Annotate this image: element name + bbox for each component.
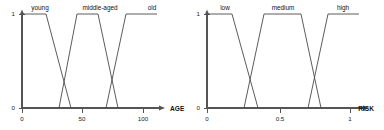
age-y-ticklabel-1: 1 bbox=[12, 10, 16, 17]
age-curve-old bbox=[106, 14, 157, 108]
risk-y-ticklabel-0: 0 bbox=[197, 104, 201, 111]
age-set-label-young: young bbox=[31, 4, 49, 12]
fuzzy-membership-figure: 1 0 0 50 100 AGE young middle-aged old bbox=[0, 0, 384, 130]
risk-set-label-low: low bbox=[220, 4, 230, 11]
risk-x-ticklabel-0: 0 bbox=[205, 115, 209, 122]
risk-set-label-high: high bbox=[337, 4, 350, 12]
age-set-label-middle-aged: middle-aged bbox=[82, 4, 118, 12]
risk-y-ticklabel-1: 1 bbox=[197, 10, 201, 17]
age-curve-young bbox=[22, 14, 71, 108]
age-x-ticklabel-0: 0 bbox=[20, 115, 24, 122]
risk-x-ticklabel-1: 1 bbox=[348, 115, 352, 122]
membership-charts-svg: 1 0 0 50 100 AGE young middle-aged old bbox=[0, 0, 384, 130]
age-x-axis-arrowhead bbox=[159, 106, 165, 111]
risk-curve-low bbox=[207, 14, 258, 108]
chart-age: 1 0 0 50 100 AGE young middle-aged old bbox=[12, 4, 185, 122]
age-x-ticklabel-50: 50 bbox=[79, 115, 86, 122]
risk-set-label-medium: medium bbox=[272, 4, 295, 11]
chart-risk: 1 0 0 0.5 1 RISK low medium high bbox=[197, 4, 375, 122]
risk-curve-high bbox=[308, 14, 359, 108]
risk-axis-label: RISK bbox=[358, 105, 374, 112]
age-y-ticklabel-0: 0 bbox=[12, 104, 16, 111]
age-set-label-old: old bbox=[148, 4, 157, 11]
age-x-ticklabel-100: 100 bbox=[138, 115, 149, 122]
risk-x-ticklabel-05: 0.5 bbox=[276, 115, 285, 122]
age-axis-label: AGE bbox=[170, 105, 185, 112]
risk-curve-medium bbox=[244, 14, 321, 108]
